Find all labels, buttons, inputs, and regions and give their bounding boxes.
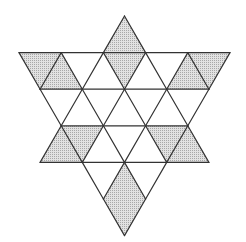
star-svg	[0, 0, 246, 242]
grid-line	[146, 89, 167, 126]
grid-line	[61, 89, 82, 126]
bottom-diamond	[103, 162, 145, 235]
grid-line	[82, 89, 103, 126]
grid-line	[103, 126, 124, 163]
grid-line	[125, 89, 146, 126]
grid-line	[188, 89, 209, 126]
grid-line	[40, 89, 61, 126]
grid-line	[82, 162, 103, 199]
grid-line	[146, 162, 167, 199]
grid-line	[125, 126, 146, 163]
grid-line	[82, 53, 103, 90]
grid-line	[146, 53, 167, 90]
grid-line	[167, 89, 188, 126]
grid-line	[103, 89, 124, 126]
star-diagram	[0, 0, 246, 242]
